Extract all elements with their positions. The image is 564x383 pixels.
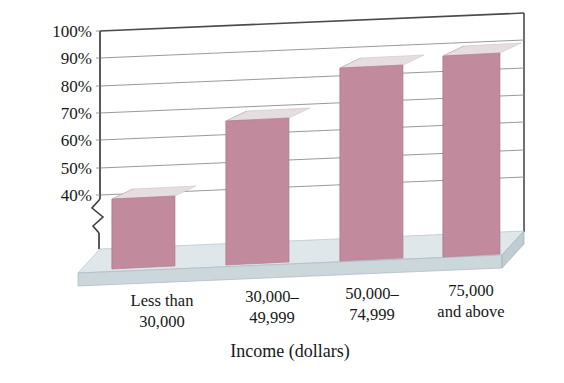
y-tick-label-50: 50% bbox=[61, 159, 92, 178]
x-tick-label-0-line0: Less than bbox=[131, 291, 194, 310]
x-axis-title: Income (dollars) bbox=[230, 341, 349, 362]
bar-0-front-face bbox=[112, 196, 175, 269]
bar-2-front-face bbox=[340, 65, 403, 261]
x-tick-label-3-line1: and above bbox=[437, 302, 504, 321]
x-tick-label-2-line0: 50,000– bbox=[345, 284, 399, 303]
x-tick-label-2-line1: 74,999 bbox=[349, 305, 394, 324]
x-tick-label-1-line0: 30,000– bbox=[245, 287, 299, 306]
bar-chart-3d: 100% 90% 80% 70% 60% 50% 40% bbox=[0, 0, 564, 383]
y-tick-label-100: 100% bbox=[52, 22, 92, 41]
x-tick-label-3-line0: 75,000 bbox=[448, 281, 493, 300]
y-tick-label-80: 80% bbox=[61, 77, 92, 96]
y-tick-label-70: 70% bbox=[61, 104, 92, 123]
y-tick-label-40: 40% bbox=[61, 186, 92, 205]
x-tick-label-1-line1: 49,999 bbox=[249, 308, 294, 327]
y-tick-label-60: 60% bbox=[61, 131, 92, 150]
bar-1-front-face bbox=[226, 118, 289, 265]
bar-3-front-face bbox=[443, 53, 500, 257]
y-tick-label-90: 90% bbox=[61, 49, 92, 68]
chart-container: 100% 90% 80% 70% 60% 50% 40% bbox=[0, 0, 564, 383]
x-tick-label-0-line1: 30,000 bbox=[139, 312, 184, 331]
